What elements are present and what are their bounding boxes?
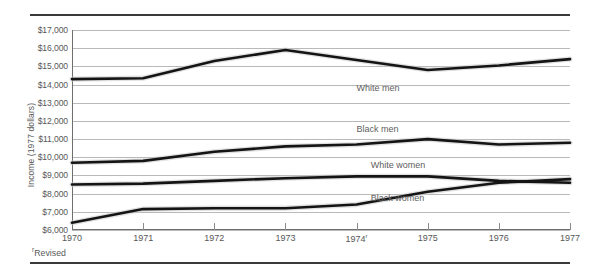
y-axis-tick-label: $11,000 xyxy=(38,134,68,144)
top-rule xyxy=(30,14,570,16)
revised-footnote: rRevised xyxy=(32,246,66,258)
y-axis-title: Income (1977 dollars) xyxy=(26,65,36,225)
x-axis-tick-label: 1973 xyxy=(275,233,295,243)
y-axis-tick-label: $9,000 xyxy=(42,170,68,180)
y-axis-tick-label: $13,000 xyxy=(38,98,68,108)
series-label-black-men: Black men xyxy=(357,124,399,134)
revised-footnote-text: Revised xyxy=(34,248,66,258)
y-axis-tick-label: $15,000 xyxy=(38,61,68,71)
bottom-rule xyxy=(30,262,570,264)
y-axis-tick-label: $14,000 xyxy=(38,80,68,90)
y-axis-tick-label: $7,000 xyxy=(42,207,68,217)
series-lines xyxy=(72,30,570,230)
y-axis-tick-label: $12,000 xyxy=(38,116,68,126)
y-axis-tick-label: $8,000 xyxy=(42,189,68,199)
gridline xyxy=(72,230,570,231)
x-axis-tick-label: 1974r xyxy=(346,233,368,244)
x-axis-tick-label: 1972 xyxy=(204,233,224,243)
x-axis-tick-label: 1975 xyxy=(418,233,438,243)
series-label-white-women: White women xyxy=(371,160,426,170)
x-axis-tick-label: 1970 xyxy=(62,233,82,243)
plot-area: $17,000$16,000$15,000$14,000$13,000$12,0… xyxy=(72,30,570,230)
y-axis-tick-label: $16,000 xyxy=(38,43,68,53)
x-axis-tick-label: 1977 xyxy=(560,233,580,243)
series-label-white-men: White men xyxy=(357,83,400,93)
chart-figure: Income (1977 dollars) $17,000$16,000$15,… xyxy=(0,0,598,276)
x-axis-tick xyxy=(570,223,571,230)
series-label-black-women: Black women xyxy=(371,193,425,203)
x-axis-tick-label: 1971 xyxy=(133,233,153,243)
y-axis-tick-label: $10,000 xyxy=(38,152,68,162)
y-axis-tick-label: $17,000 xyxy=(38,25,68,35)
x-axis-tick-label: 1976 xyxy=(489,233,509,243)
